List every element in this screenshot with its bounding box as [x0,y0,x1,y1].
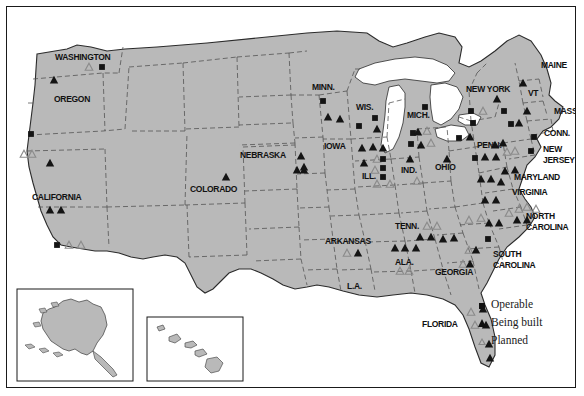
state-label: WASHINGTON [55,52,111,62]
state-label: WIS. [356,102,373,112]
map-canvas: WASHINGTONOREGONCALIFORNIACOLORADONEBRAS… [7,7,575,387]
state-label: ALA. [395,257,414,267]
state-label: MAINE [541,60,568,70]
alaska-inset [17,289,133,381]
marker-operable [28,131,34,137]
state-label: MASS. [554,106,575,116]
marker-operable [485,236,491,242]
marker-operable [508,121,514,127]
state-label: FLORIDA [422,319,458,329]
marker-operable [528,148,534,154]
legend-label-being-built: Being built [491,316,542,328]
marker-operable [380,174,386,180]
state-label: NEW YORK [466,84,511,94]
marker-operable [380,165,386,171]
state-label: MARYLAND [514,172,560,182]
marker-operable [99,64,105,70]
filled-square-icon [473,296,491,312]
state-label: CONN. [544,128,570,138]
state-label: ILL. [362,171,376,181]
state-label: ARKANSAS [325,236,371,246]
state-label: OREGON [54,94,90,104]
state-label: CALIFORNIA [32,192,82,202]
marker-operable [372,115,378,121]
marker-operable [380,156,386,162]
state-label: VT [528,88,539,98]
legend-label-operable: Operable [491,298,533,310]
marker-operable [470,120,476,126]
state-label: SOUTH [493,249,521,259]
map-screenshot: WASHINGTONOREGONCALIFORNIACOLORADONEBRAS… [0,0,584,396]
state-label: CAROLINA [526,222,569,232]
state-label: MICH. [407,110,430,120]
marker-operable [472,155,478,161]
marker-operable [531,134,537,140]
state-label: L.A. [347,281,362,291]
state-label: COLORADO [190,184,238,194]
legend-item-being-built: Being built [473,313,565,331]
state-label: NEBRASKA [240,150,286,160]
legend-label-planned: Planned [491,334,528,346]
state-label: GEORGIA [435,267,473,277]
filled-triangle-icon [473,314,491,330]
marker-operable [54,242,60,248]
marker-operable [422,104,428,110]
marker-operable [501,108,507,114]
map-legend: Operable Being built Planned [473,295,565,349]
state-label: MINN. [312,82,335,92]
hawaii-inset [147,317,243,381]
marker-operable [468,108,474,114]
map-frame: WASHINGTONOREGONCALIFORNIACOLORADONEBRAS… [6,6,576,388]
marker-operable [408,141,414,147]
state-label: OHIO [435,162,456,172]
marker-operable [456,135,462,141]
state-label: IND. [401,165,417,175]
state-label: TENN. [395,221,419,231]
marker-operable [320,98,326,104]
state-label: CAROLINA [493,260,536,270]
state-label: JERSEY [543,155,575,165]
state-label: VIRGINIA [512,187,548,197]
state-label: IOWA [324,141,346,151]
legend-item-planned: Planned [473,331,565,349]
marker-operable [356,123,362,129]
lake-erie [435,125,469,141]
state-label: NEW [543,144,563,154]
outline-triangle-icon [473,332,491,348]
legend-item-operable: Operable [473,295,565,313]
